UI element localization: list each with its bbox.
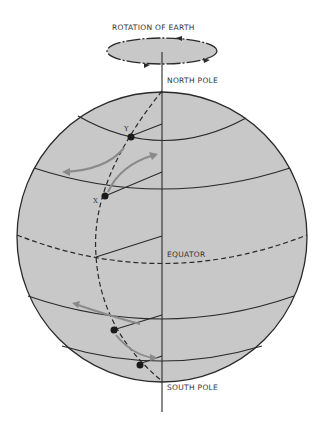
earth-rotation-diagram	[0, 0, 323, 434]
point-y-marker	[128, 134, 135, 141]
southern-point-2-marker	[137, 362, 144, 369]
equator-label: EQUATOR	[167, 250, 205, 259]
north-pole-label: NORTH POLE	[167, 76, 218, 85]
point-y-label: Y	[124, 125, 129, 133]
southern-point-1-marker	[111, 327, 118, 334]
point-x-marker	[102, 193, 109, 200]
south-pole-label: SOUTH POLE	[167, 383, 218, 392]
point-x-label: X	[93, 197, 98, 205]
rotation-label: ROTATION OF EARTH	[112, 23, 195, 32]
